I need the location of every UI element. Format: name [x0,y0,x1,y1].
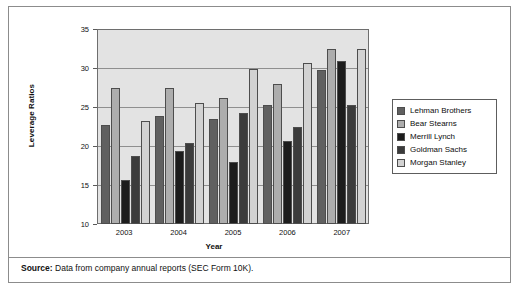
bar [209,119,218,224]
bar-group [260,30,314,224]
legend-item-label: Goldman Sachs [410,144,467,155]
legend-swatch-icon [397,133,405,141]
x-axis-tick-label: 2004 [152,228,206,237]
bar [357,49,366,224]
y-axis-tick-mark [93,146,97,147]
bar [195,103,204,224]
legend-item-label: Bear Stearns [410,118,457,129]
bar-group [206,30,260,224]
source-note: Source: Data from company annual reports… [21,263,253,273]
x-axis-tick-label: 2005 [206,228,260,237]
y-axis-tick-mark [93,224,97,225]
legend-item-label: Merrill Lynch [410,131,455,142]
legend-item: Bear Stearns [397,117,491,130]
legend-swatch-icon [397,120,405,128]
legend-item-label: Morgan Stanley [410,157,466,168]
legend-swatch-icon [397,159,405,167]
chart-legend: Lehman BrothersBear StearnsMerrill Lynch… [392,99,497,174]
source-text: Data from company annual reports (SEC Fo… [53,263,254,273]
y-axis-tick-mark [93,29,97,30]
y-axis-tick-label: 20 [67,142,89,151]
bar [219,98,228,224]
chart-area: Leverage Ratios 101520253035 20032004200… [9,7,512,257]
bar [175,151,184,224]
y-axis-tick-label: 35 [67,25,89,34]
y-axis-tick-mark [93,107,97,108]
y-axis-tick-mark [93,68,97,69]
source-divider [9,257,510,258]
legend-item-label: Lehman Brothers [410,105,471,116]
bar [327,49,336,225]
bar [141,121,150,224]
bar [239,113,248,224]
figure-container: Leverage Ratios 101520253035 20032004200… [0,0,521,298]
y-axis-title: Leverage Ratios [27,56,36,176]
bar [317,70,326,224]
bar [165,88,174,224]
x-axis-tick-label: 2003 [97,228,151,237]
bar [131,156,140,224]
bar [229,162,238,224]
bar [283,141,292,224]
bar [155,116,164,224]
bar [249,69,258,224]
y-axis-tick-label: 10 [67,220,89,229]
bar-group [314,30,368,224]
bar-group [98,30,152,224]
bar [121,180,130,224]
legend-swatch-icon [397,107,405,115]
legend-item: Lehman Brothers [397,104,491,117]
y-axis-tick-mark [93,185,97,186]
y-axis-tick-label: 25 [67,103,89,112]
bar [337,61,346,224]
figure-frame: Leverage Ratios 101520253035 20032004200… [8,6,511,283]
bar-group [152,30,206,224]
x-axis-tick-label: 2006 [260,228,314,237]
legend-swatch-icon [397,146,405,154]
bar [185,143,194,224]
x-axis-title: Year [79,242,349,251]
bar [303,63,312,224]
bar [347,105,356,224]
bar [101,125,110,224]
y-axis-tick-label: 15 [67,181,89,190]
y-axis-tick-label: 30 [67,64,89,73]
bar [273,84,282,224]
x-axis-tick-label: 2007 [315,228,369,237]
legend-item: Merrill Lynch [397,130,491,143]
bar-groups [98,30,368,224]
bar [111,88,120,225]
bar [293,127,302,224]
legend-item: Goldman Sachs [397,143,491,156]
legend-item: Morgan Stanley [397,156,491,169]
bar [263,105,272,224]
source-label: Source: [21,263,53,273]
